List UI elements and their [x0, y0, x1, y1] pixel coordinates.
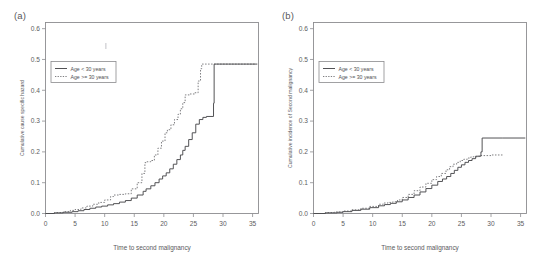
y-tick-label: 0.6: [31, 25, 40, 32]
x-tick-label: 25: [190, 220, 198, 227]
panel-a-y-ticks: 0.00.10.20.30.40.50.6: [31, 25, 46, 217]
y-tick-label: 0.6: [299, 25, 308, 32]
panel-b-axes: 0.00.10.20.30.40.50.6 05101520253035: [299, 23, 527, 227]
y-tick-label: 0.0: [299, 210, 308, 217]
x-tick-label: 0: [312, 220, 316, 227]
y-tick-label: 0.5: [299, 56, 308, 63]
panel-b-plot: 0.00.10.20.30.40.50.6 05101520253035 Age…: [272, 0, 544, 269]
x-tick-label: 25: [458, 220, 466, 227]
y-tick-label: 0.3: [299, 117, 308, 124]
x-tick-label: 35: [249, 220, 257, 227]
legend-label-lt30: Age < 30 years: [339, 66, 374, 72]
panel-a: (a) 0.00.10.20.30.40.50.6 05101520253035…: [0, 0, 272, 269]
panel-a-xaxis-title: Time to second malignancy: [113, 244, 191, 252]
panel-b: (b) 0.00.10.20.30.40.50.6 05101520253035…: [272, 0, 544, 269]
legend-label-ge30: Age >= 30 years: [71, 74, 109, 80]
x-tick-label: 5: [73, 220, 77, 227]
y-tick-label: 0.2: [299, 148, 308, 155]
panel-b-yaxis-title: Cumulative incidence of Second malignanc…: [287, 68, 293, 168]
legend-label-lt30: Age < 30 years: [71, 66, 106, 72]
curve-age-ge-30: [46, 64, 257, 213]
panel-a-yaxis-title: Cumulative cause specific hazard: [19, 80, 25, 156]
panel-b-curves: [314, 138, 526, 213]
panel-a-frame: [46, 23, 259, 214]
curve-age-lt-30: [46, 64, 258, 213]
x-tick-label: 10: [369, 220, 377, 227]
y-tick-label: 0.1: [299, 179, 308, 186]
y-tick-label: 0.4: [299, 87, 308, 94]
legend-label-ge30: Age >= 30 years: [339, 74, 377, 80]
x-tick-label: 20: [160, 220, 168, 227]
panel-a-legend: Age < 30 years Age >= 30 years: [51, 62, 116, 83]
y-tick-label: 0.2: [31, 148, 40, 155]
scan-artifact: [105, 43, 107, 49]
panel-a-axes: 0.00.10.20.30.40.50.6 05101520253035: [31, 23, 259, 227]
y-tick-label: 0.0: [31, 210, 40, 217]
figure-container: (a) 0.00.10.20.30.40.50.6 05101520253035…: [0, 0, 544, 269]
x-tick-label: 0: [44, 220, 48, 227]
panel-b-x-ticks: 05101520253035: [312, 214, 525, 227]
panel-a-x-ticks: 05101520253035: [44, 214, 257, 227]
panel-b-frame: [314, 23, 527, 214]
curve-age-lt-30: [314, 138, 526, 213]
x-tick-label: 20: [428, 220, 436, 227]
panel-a-label: (a): [14, 10, 26, 21]
y-tick-label: 0.4: [31, 87, 40, 94]
panel-a-plot: 0.00.10.20.30.40.50.6 05101520253035 Age…: [0, 0, 272, 269]
x-tick-label: 35: [517, 220, 525, 227]
panel-b-y-ticks: 0.00.10.20.30.40.50.6: [299, 25, 314, 217]
y-tick-label: 0.3: [31, 117, 40, 124]
panel-b-label: (b): [282, 10, 294, 21]
curve-age-ge-30: [314, 155, 503, 214]
panel-b-legend: Age < 30 years Age >= 30 years: [319, 62, 384, 83]
x-tick-label: 15: [399, 220, 407, 227]
y-tick-label: 0.5: [31, 56, 40, 63]
x-tick-label: 10: [101, 220, 109, 227]
y-tick-label: 0.1: [31, 179, 40, 186]
panel-a-curves: [46, 64, 258, 213]
panel-b-xaxis-title: Time to second malignancy: [381, 244, 459, 252]
x-tick-label: 30: [219, 220, 227, 227]
x-tick-label: 30: [487, 220, 495, 227]
x-tick-label: 5: [341, 220, 345, 227]
x-tick-label: 15: [131, 220, 139, 227]
